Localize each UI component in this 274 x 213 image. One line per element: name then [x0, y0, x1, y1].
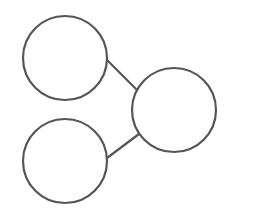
node-circle-right: [132, 68, 216, 152]
node-circle-bottom-left: [23, 119, 107, 203]
diagram-canvas: [0, 0, 274, 213]
node-circle-top-left: [23, 16, 107, 100]
